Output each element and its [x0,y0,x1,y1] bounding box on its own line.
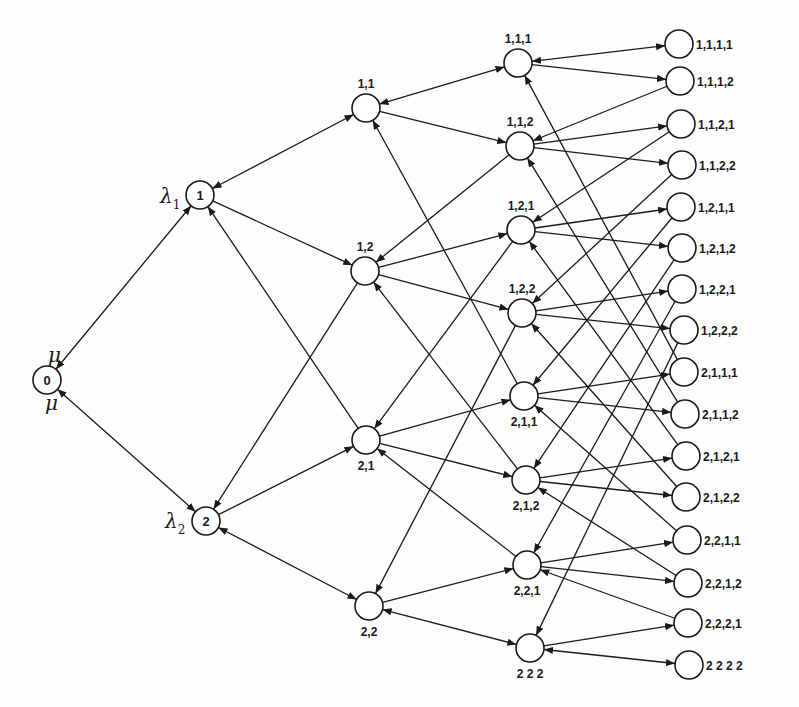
state-node-1121: 1,1,2,1 [667,110,735,138]
transition-edge-2-22 [218,527,356,599]
transition-edge-221-2211 [541,542,673,563]
state-circle [668,275,696,303]
state-node-122: 1,2,2 [508,282,536,327]
state-node-2112: 2,1,1,2 [671,400,739,428]
transition-edge-11-112 [380,111,507,142]
transition-edge-12-121 [379,234,508,268]
state-node-1212: 1,2,1,2 [668,234,736,262]
state-label: 1,2,2 [509,282,536,296]
state-circle [675,651,703,679]
state-circle [668,151,696,179]
state-label: 1,2,2,1 [699,283,736,297]
transition-edge-1-12 [213,201,353,265]
state-node-11: 1,1 [352,77,380,122]
transition-edge-2122-122 [531,323,676,486]
transition-edge-121-1212 [535,232,668,247]
state-circle [516,634,544,662]
transition-edge-2111-111 [525,75,678,359]
state-label: 2 2 2 2 [706,659,743,673]
state-node-1221: 1,2,2,1 [668,275,736,303]
state-label: 2,1,1,1 [701,366,738,380]
transition-edge-122-1222 [536,314,670,328]
transition-edge-12-122 [379,275,509,310]
state-node-1111: 1,1,1,1 [665,30,733,58]
state-label: 1,2,1 [508,199,535,213]
transition-edge-111-1112 [532,65,666,80]
state-node-2121: 2,1,2,1 [672,442,740,470]
state-label: 2,1,1,2 [702,408,739,422]
transition-edge-21-212 [380,443,513,476]
state-label: 1,1,1,1 [696,38,733,52]
transition-edge-2-21 [218,446,353,514]
state-label: 2,1,2,2 [703,491,740,505]
transition-edge-222-2221 [544,625,674,646]
transition-edge-1-11 [212,114,353,188]
state-label: 1,2,1,2 [699,242,736,256]
transition-edge-21-211 [379,400,510,436]
transition-edge-1221-221 [534,301,675,553]
state-label: 1,1 [358,77,375,91]
state-circle [673,526,701,554]
transition-edge-2221-221 [540,570,675,619]
state-node-12: 1,2 [351,240,379,285]
state-node-112: 1,1,2 [506,115,534,160]
transition-edge-111-1111 [532,46,665,62]
transition-edge-122-1221 [536,291,668,311]
state-circle [512,466,540,494]
state-label: 2,1,2 [513,499,540,513]
state-circle [504,49,532,77]
state-circle [671,400,699,428]
lambda1-label: λ1 [159,184,180,212]
transition-edge-1112-112 [533,86,667,140]
state-circle [667,110,695,138]
state-node-2212: 2,2,1,2 [674,569,742,597]
state-circle [355,592,383,620]
state-node-221: 2,2,1 [513,551,541,598]
state-circle [672,483,700,511]
state-label: 0 [43,373,50,388]
state-circle [668,234,696,262]
transition-edge-1121-121 [533,132,670,223]
state-node-2111: 2,1,1,1 [670,358,738,386]
state-label: 2,1,2,1 [703,450,740,464]
transition-edge-211-11 [373,120,518,383]
transition-edge-121-21 [374,241,512,428]
lambda2-label: λ2 [164,509,185,537]
state-circle [667,193,695,221]
state-node-2211: 2,2,1,1 [673,526,741,554]
state-node-2221: 2,2,2,1 [674,609,742,637]
transition-edge-0-2 [57,389,195,511]
nodes-layer: 0121,11,22,12,21,1,11,1,21,2,11,2,22,1,1… [33,30,743,681]
state-circle [352,94,380,122]
state-label: 2,2,1,2 [705,577,742,591]
transition-edge-212-12 [374,282,518,469]
state-circle [510,382,538,410]
state-node-2: 2 [192,507,220,535]
state-node-1112: 1,1,1,2 [666,67,734,95]
transition-edge-222-2222 [544,649,675,663]
state-circle [351,257,379,285]
state-label: 2 2 2 [517,667,544,681]
transition-edge-0-1 [56,206,191,369]
transition-edge-212-2122 [540,481,672,495]
state-circle [665,30,693,58]
state-node-1122: 1,1,2,2 [668,151,736,179]
state-label: 1,2 [357,240,374,254]
state-circle [674,609,702,637]
state-node-1: 1 [186,181,214,209]
edges-layer [56,46,678,664]
transition-edge-2121-121 [529,241,677,444]
state-circle [352,426,380,454]
state-circle [670,358,698,386]
state-circle [506,132,534,160]
state-node-111: 1,1,1 [504,32,532,77]
state-label: 1,2,1,1 [698,201,735,215]
state-circle [666,67,694,95]
transition-edge-22-222 [383,610,517,645]
transition-edge-211-2111 [538,374,670,394]
state-circle [513,551,541,579]
mu-top-label: μ [48,343,61,367]
state-label: 1,1,2,1 [698,118,735,132]
transition-edge-221-2212 [541,567,674,582]
state-node-22: 2,2 [355,592,383,639]
